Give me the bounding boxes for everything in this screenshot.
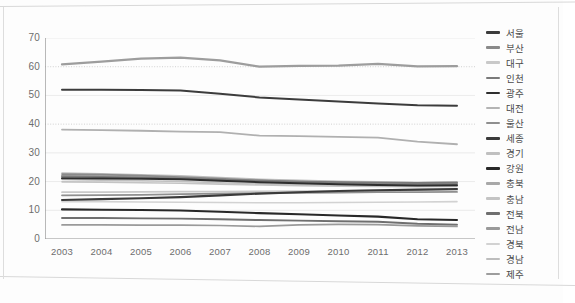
legend-swatch-icon	[486, 152, 500, 155]
legend-item-경기[interactable]: 경기	[486, 146, 556, 161]
legend-item-label: 경북	[506, 237, 524, 251]
series-line-제주	[62, 58, 457, 67]
y-axis-tick-label: 0	[16, 233, 40, 244]
y-axis-tick-label: 40	[16, 118, 40, 129]
x-axis-labels: 2003200420052006200720082009201020112012…	[45, 246, 475, 262]
x-axis-tick-label: 2007	[209, 246, 231, 257]
legend-item-대구[interactable]: 대구	[486, 55, 556, 70]
x-axis-tick-label: 2008	[249, 246, 271, 257]
legend-item-광주[interactable]: 광주	[486, 85, 556, 100]
legend-item-인천[interactable]: 인천	[486, 70, 556, 85]
legend-item-전남[interactable]: 전남	[486, 221, 556, 236]
legend-item-label: 충북	[506, 176, 524, 190]
x-axis-tick-label: 2009	[288, 246, 310, 257]
line-chart-svg	[45, 38, 475, 239]
y-axis-tick-label: 30	[16, 147, 40, 158]
legend-item-label: 세종	[506, 131, 524, 145]
x-axis-tick-label: 2013	[446, 246, 468, 257]
legend-item-경북[interactable]: 경북	[486, 236, 556, 251]
x-axis-tick-label: 2006	[170, 246, 192, 257]
series-line-서울	[62, 90, 457, 106]
x-axis-tick-label: 2010	[328, 246, 350, 257]
series-line-지방1	[62, 130, 457, 145]
legend-swatch-icon	[486, 77, 500, 80]
legend-item-경남[interactable]: 경남	[486, 251, 556, 266]
series-line-경북	[62, 202, 457, 203]
legend-item-전북[interactable]: 전북	[486, 206, 556, 221]
series-line-전북	[62, 218, 457, 225]
legend-swatch-icon	[486, 137, 500, 140]
legend-item-label: 전남	[506, 222, 524, 236]
y-axis-tick-label: 60	[16, 61, 40, 72]
legend-item-대전[interactable]: 대전	[486, 100, 556, 115]
y-axis-tick-label: 50	[16, 89, 40, 100]
legend-item-label: 대전	[506, 101, 524, 115]
legend-swatch-icon	[486, 197, 500, 200]
y-axis-tick-label: 70	[16, 32, 40, 43]
legend-swatch-icon	[486, 46, 500, 49]
legend-swatch-icon	[486, 227, 500, 230]
legend-item-label: 제주	[506, 267, 524, 281]
legend-item-label: 광주	[506, 86, 524, 100]
y-axis-tick-label: 20	[16, 176, 40, 187]
legend-item-label: 전북	[506, 207, 524, 221]
legend-item-label: 인천	[506, 71, 524, 85]
legend-swatch-icon	[486, 92, 500, 95]
legend-swatch-icon	[486, 273, 500, 276]
legend-swatch-icon	[486, 258, 500, 261]
x-axis-tick-label: 2005	[130, 246, 152, 257]
series-line-전남	[62, 224, 457, 226]
legend-swatch-icon	[486, 243, 500, 246]
legend-item-강원[interactable]: 강원	[486, 161, 556, 176]
y-axis-tick-label: 10	[16, 204, 40, 215]
legend-item-울산[interactable]: 울산	[486, 116, 556, 131]
legend-swatch-icon	[486, 31, 500, 34]
legend-item-label: 부산	[506, 41, 524, 55]
y-axis-labels: 010203040506070	[12, 38, 40, 239]
legend-swatch-icon	[486, 212, 500, 215]
chart-legend: 서울부산대구인천광주대전울산세종경기강원충북충남전북전남경북경남제주	[486, 25, 556, 282]
legend-item-label: 강원	[506, 161, 524, 175]
legend-item-충남[interactable]: 충남	[486, 191, 556, 206]
x-axis-tick-label: 2011	[367, 246, 388, 257]
legend-swatch-icon	[486, 61, 500, 64]
plot-area	[45, 38, 475, 239]
x-axis-tick-label: 2004	[91, 246, 113, 257]
legend-item-label: 충남	[506, 192, 524, 206]
legend-item-충북[interactable]: 충북	[486, 176, 556, 191]
legend-swatch-icon	[486, 167, 500, 170]
legend-swatch-icon	[486, 107, 500, 110]
legend-item-세종[interactable]: 세종	[486, 131, 556, 146]
x-axis-tick-label: 2003	[51, 246, 73, 257]
legend-item-부산[interactable]: 부산	[486, 40, 556, 55]
legend-item-서울[interactable]: 서울	[486, 25, 556, 40]
legend-item-label: 경남	[506, 252, 524, 266]
legend-item-label: 서울	[506, 26, 524, 40]
legend-item-제주[interactable]: 제주	[486, 267, 556, 282]
legend-item-label: 대구	[506, 56, 524, 70]
legend-swatch-icon	[486, 122, 500, 125]
legend-item-label: 울산	[506, 116, 524, 130]
x-axis-tick-label: 2012	[407, 246, 429, 257]
legend-item-label: 경기	[506, 146, 524, 160]
legend-swatch-icon	[486, 182, 500, 185]
